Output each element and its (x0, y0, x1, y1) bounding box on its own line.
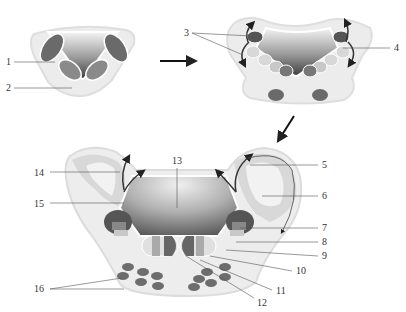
label-1: 1 (6, 56, 11, 67)
ventral-left (142, 236, 178, 256)
neural-tube-diagram: 1 2 3 4 (0, 0, 406, 312)
stage-2: 3 4 (184, 18, 399, 104)
label-11: 11 (276, 285, 286, 296)
label-4: 4 (394, 42, 399, 53)
label-2: 2 (6, 82, 11, 93)
stage-3: 14 15 13 16 5 6 7 8 9 10 11 12 (34, 148, 327, 308)
stage-1: 1 2 (6, 27, 134, 96)
stage2-ventral-left (268, 89, 284, 101)
label-13: 13 (172, 155, 182, 166)
label-12: 12 (257, 297, 267, 308)
arrow-stage2-to-stage3 (280, 116, 294, 138)
label-10: 10 (296, 265, 306, 276)
label-9: 9 (322, 250, 327, 261)
label-14: 14 (34, 167, 44, 178)
label-15: 15 (34, 198, 44, 209)
label-8: 8 (322, 236, 327, 247)
label-6: 6 (322, 190, 327, 201)
stage2-ventral-right (312, 89, 328, 101)
label-5: 5 (322, 159, 327, 170)
ventral-right (180, 236, 216, 256)
label-7: 7 (322, 222, 327, 233)
label-3: 3 (184, 27, 189, 38)
label-16: 16 (34, 283, 44, 294)
stage3-lumen (120, 176, 238, 236)
